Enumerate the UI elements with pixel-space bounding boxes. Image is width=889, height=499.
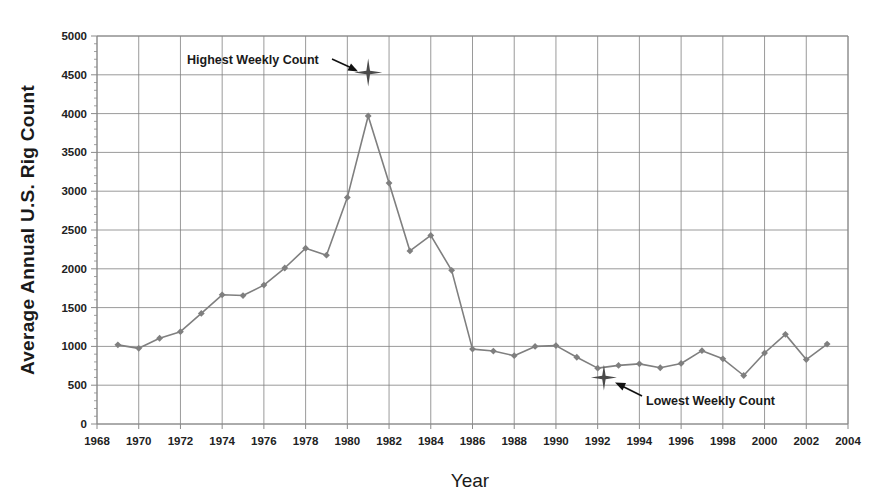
x-axis-tick-label: 1970 [126,435,152,447]
y-axis-tick-label: 1500 [61,302,87,314]
y-axis-tick-label: 3000 [61,185,87,197]
x-axis-tick-label: 1972 [168,435,194,447]
y-axis-tick-label: 4500 [61,69,87,81]
y-axis-tick-label: 2000 [61,263,87,275]
x-axis-tick-label: 1968 [84,435,110,447]
x-axis-tick-label: 1992 [585,435,611,447]
y-axis-tick-label: 0 [81,418,87,430]
y-axis-tick-label: 5000 [61,30,87,42]
x-axis-tick-label: 1978 [293,435,319,447]
x-axis-tick-label: 1980 [335,435,361,447]
highest-weekly-count-label: Highest Weekly Count [187,53,320,67]
rig-count-chart-figure: 0500100015002000250030003500400045005000… [0,0,889,499]
x-axis-tick-label: 1988 [501,435,527,447]
x-axis-tick-label: 1974 [209,435,235,447]
y-axis-tick-label: 2500 [61,224,87,236]
x-axis-tick-label: 1990 [543,435,569,447]
lowest-weekly-count-label: Lowest Weekly Count [646,394,776,408]
y-axis-tick-labels: 0500100015002000250030003500400045005000 [61,30,87,430]
x-axis-tick-labels: 1968197019721974197619781980198219841986… [84,435,861,447]
x-axis-title: Year [451,470,490,491]
y-axis-tick-label: 4000 [61,108,87,120]
y-axis-tick-label: 1000 [61,340,87,352]
x-axis-tick-label: 1996 [668,435,694,447]
x-axis-tick-label: 2002 [793,435,819,447]
y-axis-tick-label: 3500 [61,146,87,158]
x-axis-tick-label: 1998 [710,435,736,447]
x-axis-ticks [97,424,848,429]
x-axis-tick-label: 1984 [418,435,444,447]
x-axis-tick-label: 2004 [835,435,861,447]
x-axis-tick-label: 1982 [376,435,402,447]
y-axis-tick-label: 500 [68,379,87,391]
x-axis-tick-label: 1994 [627,435,653,447]
x-axis-tick-label: 2000 [752,435,778,447]
y-axis-title: Average Annual U.S. Rig Count [17,85,38,376]
x-axis-tick-label: 1986 [460,435,486,447]
y-axis-minor-ticks [91,36,97,424]
x-axis-tick-label: 1976 [251,435,277,447]
chart-canvas: 0500100015002000250030003500400045005000… [0,0,889,499]
